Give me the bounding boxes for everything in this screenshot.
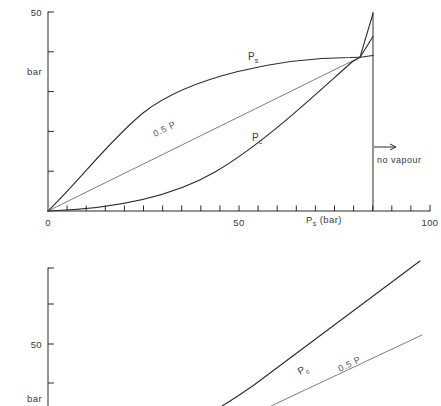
no-vapour-arrow [374,144,396,150]
label-half-p: 0.5 P [151,119,177,139]
top-x-axis-label-unit: (bar) [320,214,342,225]
bottom-panel: 50 bar Pc 0.5 P [27,261,422,406]
figure-svg: 50 bar 0 50 100 Ps (bar) Ps [0,0,441,406]
svg-text:Ps (bar): Ps (bar) [306,214,342,227]
svg-text:Ps: Ps [248,51,259,64]
top-y-axis-label: bar [27,66,42,77]
top-x-ticks [67,206,411,212]
top-x-tick-label-100: 100 [421,217,438,228]
label-ps: Ps [248,51,259,64]
bottom-y-tick-label-50: 50 [31,339,42,350]
bottom-curve-pc [222,261,420,406]
top-x-tick-label-0: 0 [45,217,51,228]
top-y-tick-label-50: 50 [31,7,42,18]
fan-line-middle [360,37,373,58]
annotation-no-vapour: no vapour [377,155,422,165]
svg-text:Pc: Pc [296,362,312,379]
bottom-label-half-p: 0.5 P [336,354,362,374]
top-x-axis-label-main: P [306,214,313,225]
bottom-y-axis-label: bar [27,393,42,404]
top-panel: 50 bar 0 50 100 Ps (bar) Ps [27,7,438,228]
bottom-label-pc: Pc [296,362,312,379]
curve-half-p [48,57,360,211]
top-x-tick-label-50: 50 [233,217,244,228]
label-pc-sub: c [259,138,263,145]
top-x-axis-label: Ps (bar) [306,214,342,227]
fan-line-upper [360,14,373,58]
label-ps-sub: s [255,57,259,64]
fan-line-lower [360,56,373,58]
figure-root: 50 bar 0 50 100 Ps (bar) Ps [0,0,441,406]
